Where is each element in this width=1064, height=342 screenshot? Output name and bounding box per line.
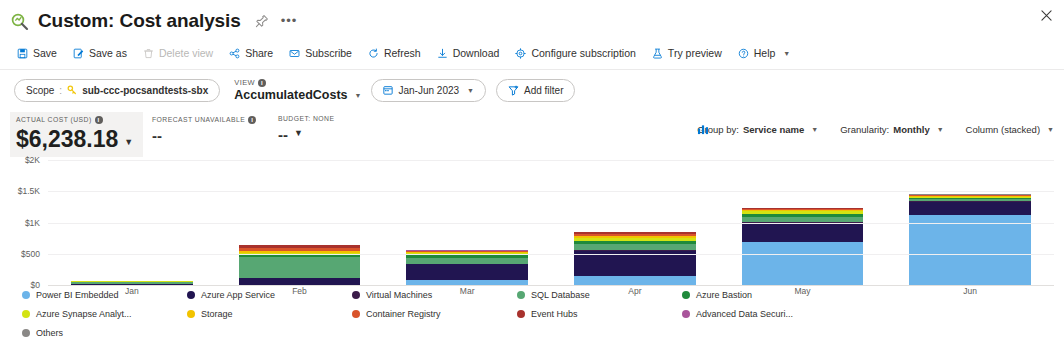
- close-icon[interactable]: [1036, 5, 1056, 25]
- bar-segment[interactable]: [909, 202, 1031, 215]
- legend-color-swatch: [352, 310, 360, 318]
- view-value: AccumulatedCosts: [234, 89, 347, 102]
- stacked-bar[interactable]: [909, 194, 1031, 285]
- refresh-label: Refresh: [384, 47, 421, 59]
- actual-cost-label: ACTUAL COST (USD): [16, 117, 92, 124]
- subscribe-button[interactable]: Subscribe: [282, 45, 359, 61]
- legend-item[interactable]: Event Hubs: [517, 309, 682, 319]
- legend-item[interactable]: SQL Database: [517, 290, 682, 300]
- stacked-bar[interactable]: [574, 232, 696, 285]
- bar-segment[interactable]: [406, 264, 528, 280]
- stacked-bar[interactable]: [406, 250, 528, 285]
- legend-item[interactable]: Others: [22, 328, 187, 338]
- scope-separator: :: [59, 85, 62, 96]
- beaker-icon: [652, 48, 663, 59]
- bar-segment[interactable]: [909, 215, 1031, 285]
- info-icon: i: [95, 116, 103, 124]
- y-axis-tick: $2K: [25, 155, 40, 165]
- date-range-selector[interactable]: Jan-Jun 2023 ▼: [371, 79, 486, 102]
- key-icon: [67, 85, 77, 95]
- chart-options: Group by: Service name ▼ Granularity: Mo…: [697, 124, 1054, 135]
- legend-label: Event Hubs: [531, 309, 578, 319]
- y-axis-tick: $1K: [25, 218, 40, 228]
- y-axis-tick: $500: [21, 249, 40, 259]
- legend-label: Advanced Data Securi...: [696, 309, 793, 319]
- info-icon: i: [248, 116, 256, 124]
- ellipsis-icon[interactable]: •••: [281, 17, 298, 25]
- legend-item[interactable]: Storage: [187, 309, 352, 319]
- actual-cost-label-row: ACTUAL COST (USD) i: [16, 116, 133, 124]
- chart-legend: Power BI EmbeddedAzure App ServiceVirtua…: [22, 290, 1054, 338]
- save-as-label: Save as: [89, 47, 127, 59]
- legend-item[interactable]: Azure App Service: [187, 290, 352, 300]
- bar-segment[interactable]: [574, 276, 696, 285]
- chevron-down-icon: ▼: [467, 87, 474, 94]
- share-button[interactable]: Share: [222, 45, 280, 61]
- bar-segment[interactable]: [239, 257, 361, 278]
- legend-label: SQL Database: [531, 290, 590, 300]
- legend-item[interactable]: Container Registry: [352, 309, 517, 319]
- save-label: Save: [33, 47, 57, 59]
- budget-label: BUDGET: NONE: [278, 116, 334, 123]
- legend-color-swatch: [517, 291, 525, 299]
- info-icon: i: [258, 79, 266, 87]
- try-preview-label: Try preview: [668, 47, 722, 59]
- forecast-label: FORECAST UNAVAILABLE: [152, 117, 245, 124]
- download-button[interactable]: Download: [430, 45, 507, 61]
- subscribe-label: Subscribe: [305, 47, 352, 59]
- legend-item[interactable]: Azure Bastion: [682, 290, 1054, 300]
- help-button[interactable]: Help ▼: [731, 45, 798, 61]
- budget-value-row: -- ▼: [278, 127, 334, 142]
- legend-item[interactable]: Azure Synapse Analyt...: [22, 309, 187, 319]
- legend-label: Virtual Machines: [366, 290, 432, 300]
- forecast-value: --: [152, 128, 162, 143]
- y-axis: $0$500$1K$1.5K$2K: [0, 160, 46, 285]
- scope-value: sub-ccc-pocsandtests-sbx: [82, 85, 208, 96]
- legend-label: Others: [36, 328, 63, 338]
- cost-analysis-icon: [8, 9, 32, 33]
- chevron-down-icon[interactable]: ▼: [294, 129, 303, 138]
- legend-item[interactable]: Virtual Machines: [352, 290, 517, 300]
- stacked-bar[interactable]: [742, 208, 864, 285]
- add-filter-button[interactable]: Add filter: [496, 79, 575, 102]
- legend-item[interactable]: Power BI Embedded: [22, 290, 187, 300]
- legend-label: Container Registry: [366, 309, 441, 319]
- y-axis-tick: $0: [31, 280, 40, 290]
- help-label: Help: [754, 47, 776, 59]
- cost-chart: $0$500$1K$1.5K$2K JanFebMarAprMayJun: [0, 160, 1064, 300]
- view-label-text: VIEW: [234, 79, 255, 87]
- legend-item[interactable]: Advanced Data Securi...: [682, 309, 1054, 319]
- date-range-value: Jan-Jun 2023: [398, 85, 459, 96]
- gear-icon: [515, 48, 526, 59]
- pin-icon[interactable]: [255, 14, 269, 28]
- bar-segment[interactable]: [742, 242, 864, 285]
- column-chart-icon: [697, 124, 1053, 135]
- legend-label: Azure Bastion: [696, 290, 752, 300]
- cost-analysis-page: Custom: Cost analysis ••• Save: [0, 0, 1064, 342]
- help-icon: [738, 48, 749, 59]
- legend-label: Power BI Embedded: [36, 290, 119, 300]
- filter-icon: [508, 85, 519, 96]
- budget-kpi[interactable]: BUDGET: NONE -- ▼: [278, 112, 334, 142]
- actual-cost-value-row: $6,238.18 ▼: [16, 128, 133, 151]
- chevron-down-icon[interactable]: ▼: [124, 138, 133, 147]
- forecast-kpi: FORECAST UNAVAILABLE i --: [152, 112, 256, 143]
- scope-selector[interactable]: Scope : sub-ccc-pocsandtests-sbx: [14, 79, 220, 102]
- stacked-bar[interactable]: [239, 245, 361, 285]
- configure-subscription-button[interactable]: Configure subscription: [508, 45, 642, 61]
- legend-color-swatch: [22, 310, 30, 318]
- actual-cost-kpi[interactable]: ACTUAL COST (USD) i $6,238.18 ▼: [10, 112, 143, 157]
- try-preview-button[interactable]: Try preview: [645, 45, 729, 61]
- view-value-row: AccumulatedCosts ▼: [234, 89, 361, 102]
- chart-type-selector[interactable]: Column (stacked) ▼: [966, 124, 1054, 135]
- view-selector[interactable]: VIEW i AccumulatedCosts ▼: [234, 79, 361, 102]
- legend-color-swatch: [682, 291, 690, 299]
- page-title: Custom: Cost analysis: [38, 10, 241, 32]
- kpi-row: ACTUAL COST (USD) i $6,238.18 ▼ FORECAST…: [0, 110, 1064, 156]
- save-button[interactable]: Save: [10, 45, 64, 61]
- save-as-button[interactable]: Save as: [66, 45, 134, 61]
- save-as-icon: [73, 48, 84, 59]
- bar-segment[interactable]: [742, 223, 864, 242]
- legend-color-swatch: [22, 329, 30, 337]
- refresh-button[interactable]: Refresh: [361, 45, 428, 61]
